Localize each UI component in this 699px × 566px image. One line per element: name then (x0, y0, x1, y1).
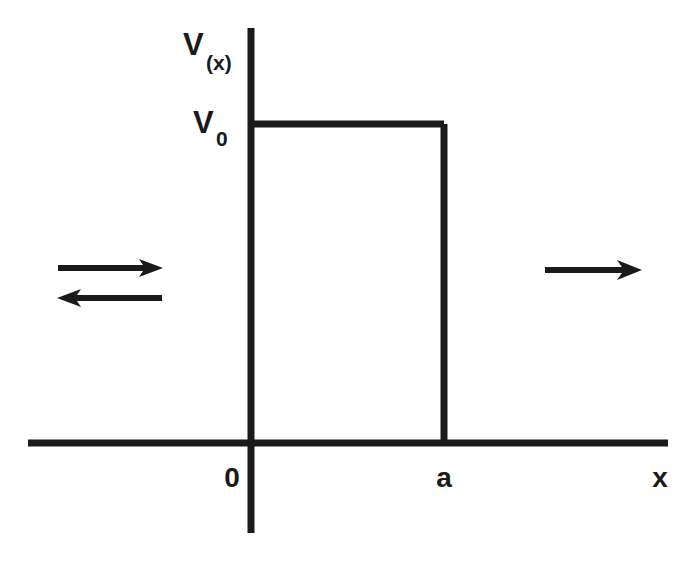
barrier-height-label-subscript: 0 (216, 127, 228, 150)
diagram-canvas: V (x) V 0 0 a x (0, 0, 699, 566)
potential-barrier-figure: V (x) V 0 0 a x (0, 0, 699, 566)
potential-axis-label-subscript: (x) (206, 51, 232, 74)
reflected-wave-arrow (57, 289, 162, 307)
origin-tick-label: 0 (224, 462, 240, 493)
incident-wave-arrow (58, 259, 163, 277)
barrier-width-tick-label: a (436, 462, 452, 493)
transmitted-wave-arrow (545, 260, 642, 280)
barrier-height-label-main: V (193, 105, 214, 140)
position-axis-label: x (652, 462, 668, 493)
potential-axis-label-main: V (183, 27, 204, 62)
